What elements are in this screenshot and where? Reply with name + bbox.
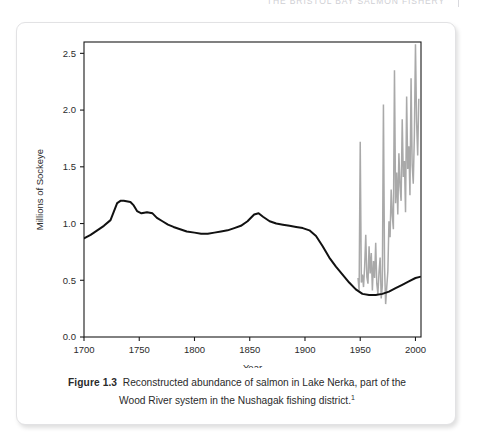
- x-axis-title: Year: [243, 362, 262, 368]
- figure-caption-text: Reconstructed abundance of salmon in Lak…: [119, 377, 406, 406]
- y-axis-tick-label: 1.5: [63, 161, 76, 172]
- chart-plot-area: 0.00.51.01.52.02.51700175018001850190019…: [17, 23, 457, 368]
- series-annual-line: [358, 44, 419, 304]
- y-axis-tick-label: 2.5: [63, 48, 76, 59]
- running-header: THE BRISTOL BAY SALMON FISHERY: [0, 0, 477, 8]
- y-axis-tick-label: 1.0: [63, 218, 76, 229]
- chart-frame: [84, 42, 421, 337]
- salmon-abundance-chart: 0.00.51.01.52.02.51700175018001850190019…: [17, 23, 457, 368]
- figure-caption-footnote: 1: [351, 394, 355, 401]
- x-axis-tick-label: 1850: [239, 344, 260, 355]
- x-axis-tick-label: 1950: [350, 344, 371, 355]
- x-axis-tick-label: 1900: [294, 344, 315, 355]
- x-axis-tick-label: 1700: [73, 344, 94, 355]
- y-axis-tick-label: 0.0: [63, 331, 76, 342]
- figure-caption: Figure 1.3 Reconstructed abundance of sa…: [55, 375, 419, 408]
- x-axis-tick-label: 1750: [129, 344, 150, 355]
- chart-series-group: [84, 44, 420, 304]
- y-axis-tick-label: 0.5: [63, 275, 76, 286]
- figure-card: 0.00.51.01.52.02.51700175018001850190019…: [16, 22, 456, 425]
- running-header-title: THE BRISTOL BAY SALMON FISHERY: [267, 0, 445, 6]
- y-axis-tick-label: 2.0: [63, 104, 76, 115]
- running-header-rule: [458, 0, 459, 7]
- figure-caption-label: Figure 1.3: [68, 377, 117, 388]
- y-axis-title: Millions of Sockeye: [34, 149, 45, 230]
- x-axis-tick-label: 1800: [184, 344, 205, 355]
- x-axis-tick-label: 2000: [405, 344, 426, 355]
